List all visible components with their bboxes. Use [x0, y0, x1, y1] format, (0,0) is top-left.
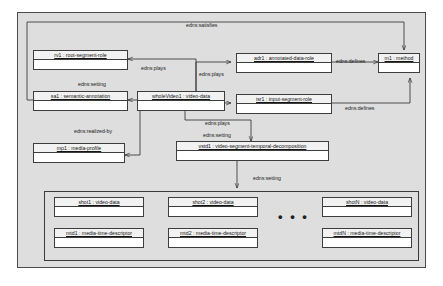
- object-body-mtdn: [323, 238, 411, 247]
- object-box-shot1[interactable]: shot1 : video-data: [54, 197, 144, 217]
- object-title-shotn: shotN : video-data: [323, 198, 411, 207]
- object-title-adr1: adr1 : annotated-data-role: [237, 54, 331, 63]
- object-body-mp1: [34, 153, 124, 162]
- object-body-adr1: [237, 63, 331, 72]
- edge-label-realized-by: edns:realized-by: [74, 128, 112, 135]
- object-box-vstd1[interactable]: vstd1 : video-segment-temporal-decomposi…: [176, 141, 329, 161]
- object-body-shot1: [55, 207, 143, 216]
- object-body-vstd1: [177, 151, 328, 160]
- object-title-mtd2: mtd2 : media-time-descriptor: [169, 229, 257, 238]
- object-title-rv1: rv1 : root-segment-role: [34, 51, 127, 60]
- object-title-sa1: sa1 : semantic-annotation: [34, 92, 127, 101]
- edge-label-defines-isr1: edns:defines: [345, 105, 374, 112]
- ellipsis-indicator: • • •: [278, 212, 309, 222]
- edge-label-setting-sa1: edns:setting: [78, 81, 106, 88]
- diagram-canvas: rv1 : root-segment-role sa1 : semantic-a…: [0, 0, 443, 286]
- object-title-mtdn: mtdN : media-time-descriptor: [323, 229, 411, 238]
- object-box-isr1[interactable]: isr1 : input-segment-role: [236, 94, 332, 114]
- object-body-mtd2: [169, 238, 257, 247]
- object-body-m1: [379, 63, 419, 72]
- object-title-m1: m1 : method: [379, 54, 419, 63]
- object-body-rv1: [34, 60, 127, 69]
- object-box-rv1[interactable]: rv1 : root-segment-role: [33, 50, 128, 70]
- object-title-mp1: mp1 : media-profile: [34, 144, 124, 153]
- object-box-mtd1[interactable]: mtd1 : media-time-descriptor: [54, 228, 144, 248]
- edge-label-defines-adr1: edns:defines: [336, 58, 365, 65]
- object-body-wholevideo1: [138, 101, 224, 110]
- edge-label-setting-shots: edns:setting: [253, 175, 281, 182]
- object-body-shot2: [169, 207, 257, 216]
- edge-defines-isr1: [332, 78, 410, 103]
- object-box-mtd2[interactable]: mtd2 : media-time-descriptor: [168, 228, 258, 248]
- object-title-vstd1: vstd1 : video-segment-temporal-decomposi…: [177, 142, 328, 151]
- edge-label-plays-adr1: edns:plays: [199, 71, 224, 78]
- object-box-shot2[interactable]: shot2 : video-data: [168, 197, 258, 217]
- object-box-mtdn[interactable]: mtdN : media-time-descriptor: [322, 228, 412, 248]
- edge-label-setting-vstd1: edns:setting: [203, 132, 231, 139]
- object-body-isr1: [237, 104, 331, 113]
- object-title-mtd1: mtd1 : media-time-descriptor: [55, 229, 143, 238]
- object-box-wholevideo1[interactable]: wholeVideo1 : video-data: [137, 91, 225, 111]
- object-box-m1[interactable]: m1 : method: [378, 53, 420, 73]
- object-box-shotn[interactable]: shotN : video-data: [322, 197, 412, 217]
- object-box-adr1[interactable]: adr1 : annotated-data-role: [236, 53, 332, 73]
- object-title-shot1: shot1 : video-data: [55, 198, 143, 207]
- edge-label-plays-rv1: edns:plays: [141, 65, 166, 72]
- object-box-mp1[interactable]: mp1 : media-profile: [33, 143, 125, 163]
- object-body-sa1: [34, 101, 127, 110]
- object-box-sa1[interactable]: sa1 : semantic-annotation: [33, 91, 128, 111]
- edge-label-satisfies: edns:satisfies: [186, 22, 217, 29]
- object-body-shotn: [323, 207, 411, 216]
- object-title-wholevideo1: wholeVideo1 : video-data: [138, 92, 224, 101]
- object-body-mtd1: [55, 238, 143, 247]
- object-title-shot2: shot2 : video-data: [169, 198, 257, 207]
- edge-label-plays-isr1: edns:plays: [205, 120, 230, 127]
- object-title-isr1: isr1 : input-segment-role: [237, 95, 331, 104]
- edge-realized-by: [125, 110, 140, 155]
